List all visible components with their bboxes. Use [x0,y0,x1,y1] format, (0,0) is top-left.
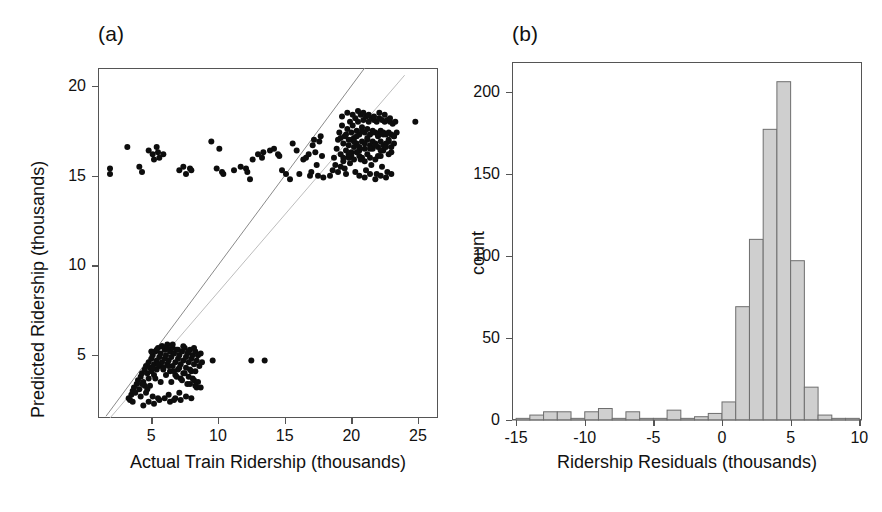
data-point [332,162,338,168]
x-tick-mark [418,418,419,424]
data-point [350,122,356,128]
data-point [371,113,377,119]
data-point [160,151,166,157]
y-tick-mark [92,355,98,356]
data-point [158,379,164,385]
data-point [198,350,204,356]
data-point [136,386,142,392]
y-tick-mark [92,265,98,266]
data-point [362,158,368,164]
x-tick-label-0: 0 [718,429,727,447]
data-point [171,397,177,403]
data-point [208,139,214,145]
y-tick-label-200: 200 [462,83,500,101]
data-point [140,402,146,408]
data-point [346,142,352,148]
data-point [340,155,346,161]
data-point [342,166,348,172]
histogram-bar [626,412,640,420]
x-tick-mark [585,420,586,426]
y-tick-label-0: 0 [462,411,500,429]
data-point [311,137,317,143]
data-point [294,148,300,154]
data-point [107,171,113,177]
data-point [150,151,156,157]
data-point [314,162,320,168]
data-point [188,395,194,401]
data-point [356,173,362,179]
histogram-bar [804,387,818,420]
data-point [340,140,346,146]
y-tick-mark [506,256,512,257]
data-point [166,363,172,369]
data-point [388,171,394,177]
data-point [336,130,342,136]
data-point [327,173,333,179]
data-point [368,162,374,168]
data-point [192,368,198,374]
data-point [171,368,177,374]
data-point [331,155,337,161]
data-point [315,173,321,179]
data-point [296,171,302,177]
data-point [136,164,142,170]
data-point [159,343,165,349]
data-point [182,370,188,376]
data-point [144,386,150,392]
data-point [188,167,194,173]
data-point [380,131,386,137]
data-point [146,399,152,405]
x-tick-mark [859,420,860,426]
x-tick-label-20: 20 [342,427,360,445]
data-point [312,149,318,155]
data-point [247,176,253,182]
data-point [250,157,256,163]
series-low-ridership-cluster [126,341,205,408]
y-tick-mark [92,176,98,177]
histogram-panel: (b) Ridership Residuals (thousands) coun… [470,0,882,512]
data-point [378,148,384,154]
data-point [178,397,184,403]
data-point [139,381,145,387]
data-point [360,110,366,116]
data-point [187,381,193,387]
data-point [392,119,398,125]
x-tick-mark [218,418,219,424]
data-point [339,113,345,119]
data-point [170,341,176,347]
data-point [367,171,373,177]
y-tick-label-150: 150 [462,165,500,183]
data-point [306,151,312,157]
data-point [151,401,157,407]
histogram-bar [530,415,544,420]
data-point [180,164,186,170]
data-point [362,140,368,146]
histogram-bar [544,412,558,420]
histogram-canvas [470,0,882,512]
data-point [378,153,384,159]
data-point [154,144,160,150]
data-point [198,384,204,390]
data-point [359,128,365,134]
scatter-x-axis-title: Actual Train Ridership (thousands) [98,452,438,473]
data-point [364,135,370,141]
x-tick-label-15: 15 [276,427,294,445]
data-point [248,358,254,364]
data-point [155,361,161,367]
data-point [367,155,373,161]
data-point [220,171,226,177]
data-point [138,393,144,399]
data-point [378,173,384,179]
data-point [260,149,266,155]
series-high-ridership-cluster [327,108,400,182]
data-point [320,174,326,180]
y-tick-label-20: 20 [52,77,86,95]
histogram-bars [512,82,862,420]
data-point [307,173,313,179]
data-point [290,140,296,146]
data-point [387,115,393,121]
data-point [176,390,182,396]
histogram-bar [818,415,832,420]
data-point [346,151,352,157]
data-point [339,122,345,128]
